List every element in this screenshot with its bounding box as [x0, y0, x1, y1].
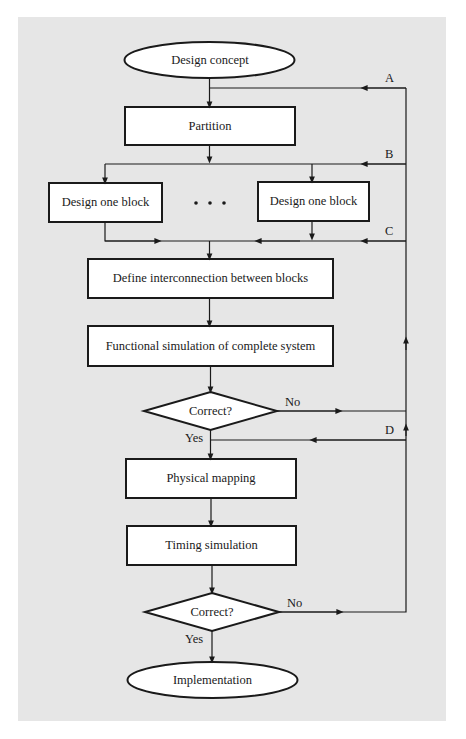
feedback-label-b: B	[385, 148, 393, 161]
flowchart-canvas: Design concept Partition Design one bloc…	[0, 0, 466, 739]
feedback-label-c: C	[385, 225, 393, 238]
design-block-right-label: Design one block	[258, 182, 369, 221]
physical-label: Physical mapping	[126, 459, 296, 498]
timing-label: Timing simulation	[127, 526, 296, 565]
design-block-left-label: Design one block	[49, 183, 162, 222]
ellipsis-dots	[194, 201, 226, 205]
decision2-label: Correct?	[145, 593, 279, 631]
feedback-label-a: A	[385, 72, 394, 85]
functional-label: Functional simulation of complete system	[88, 326, 333, 366]
decision1-no-label: No	[285, 396, 300, 409]
feedback-label-d: D	[385, 424, 394, 437]
edge-left-block-to-c	[105, 222, 158, 241]
decision1-yes-label: Yes	[185, 432, 203, 445]
start-label: Design concept	[125, 42, 295, 78]
decision2-yes-label: Yes	[185, 633, 203, 646]
end-label: Implementation	[127, 662, 298, 698]
partition-label: Partition	[125, 107, 295, 145]
decision2-no-label: No	[287, 597, 302, 610]
define-label: Define interconnection between blocks	[88, 259, 333, 298]
decision1-label: Correct?	[144, 392, 277, 430]
